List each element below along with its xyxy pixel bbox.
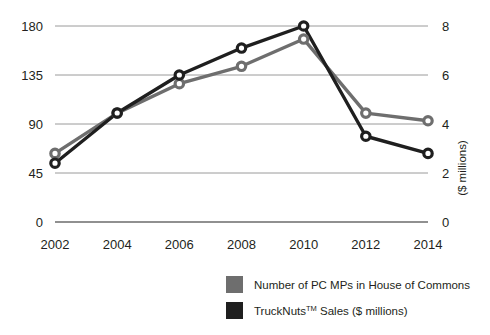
left-tick-label: 45 [29,166,43,181]
data-point-marker [299,22,307,30]
x-tick-label: 2004 [103,237,132,252]
x-tick-label: 2010 [289,237,318,252]
left-tick-label: 90 [29,117,43,132]
right-tick-label: 2 [442,166,449,181]
legend-swatch [226,302,243,319]
data-point-marker [51,149,59,157]
left-tick-label: 180 [21,19,43,34]
x-tick-label: 2014 [414,237,443,252]
data-point-marker [237,44,245,52]
data-point-marker [113,109,121,117]
data-point-marker [424,117,432,125]
right-axis-title: ($ millions) [456,140,468,196]
x-tick-label: 2006 [165,237,194,252]
legend-swatch [226,276,243,293]
right-tick-label: 6 [442,68,449,83]
x-tick-label: 2008 [227,237,256,252]
left-tick-label: 135 [21,68,43,83]
chart-container: 18013590450 86420 2002200420062008201020… [0,0,490,335]
data-point-marker [362,109,370,117]
right-tick-label: 0 [442,215,449,230]
left-tick-label: 0 [36,215,43,230]
data-point-marker [424,149,432,157]
data-point-marker [362,132,370,140]
x-tick-label: 2002 [41,237,70,252]
legend-label: Number of PC MPs in House of Commons [254,279,470,291]
data-point-marker [299,35,307,43]
right-tick-label: 4 [442,117,449,132]
data-point-marker [51,159,59,167]
right-tick-label: 8 [442,19,449,34]
dual-axis-line-chart: 18013590450 86420 2002200420062008201020… [0,0,490,335]
x-tick-label: 2012 [351,237,380,252]
data-point-marker [175,71,183,79]
legend-label: TruckNutsTM Sales ($ millions) [254,304,408,318]
data-point-marker [237,62,245,70]
